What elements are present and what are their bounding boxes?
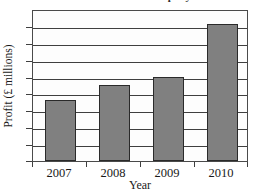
plot-area (32, 10, 248, 162)
x-axis-label: Year (32, 179, 248, 192)
y-axis-tick (26, 145, 32, 146)
bar-chart: Profit of the company Profit (£ millions… (0, 0, 253, 192)
bar (99, 85, 130, 161)
bar (153, 77, 184, 161)
y-axis-tick (26, 27, 32, 28)
y-axis-tick (26, 128, 32, 129)
chart-title: Profit of the company (32, 0, 248, 2)
y-axis-tick (26, 111, 32, 112)
y-axis-tick (26, 78, 32, 79)
bar (45, 100, 76, 161)
x-axis-tick-label: 2007 (32, 166, 86, 180)
x-axis-tick-label: 2010 (194, 166, 248, 180)
y-axis-tick (26, 44, 32, 45)
y-axis-tick (26, 61, 32, 62)
bar (207, 24, 238, 161)
y-axis-tick (26, 94, 32, 95)
y-axis-label: Profit (£ millions) (1, 10, 15, 162)
